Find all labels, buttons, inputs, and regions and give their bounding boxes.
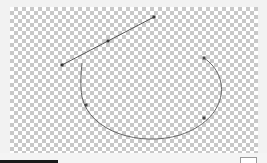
ellipse-arc-path[interactable] [81, 58, 222, 139]
arc-node-handle[interactable] [203, 57, 206, 60]
status-indicator-bar [0, 160, 58, 163]
arc-node-handle[interactable] [203, 117, 206, 120]
zoom-field[interactable] [240, 157, 257, 163]
drawing-canvas[interactable] [10, 7, 258, 153]
line-end-handle[interactable] [153, 16, 156, 19]
drawing-app [0, 0, 267, 163]
vector-layer [10, 7, 258, 153]
status-bar [0, 153, 267, 163]
line-start-handle[interactable] [61, 64, 64, 67]
line-mid-handle[interactable] [107, 40, 110, 43]
arc-node-handle[interactable] [85, 104, 88, 107]
